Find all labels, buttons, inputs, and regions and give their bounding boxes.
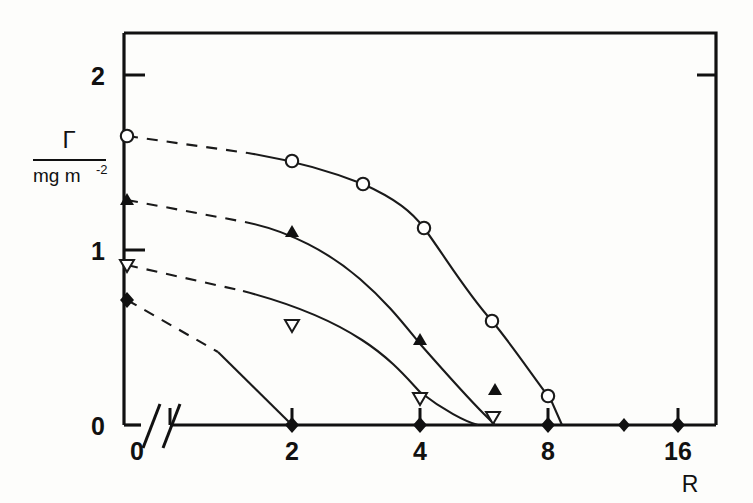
series-filled-triangle-leadin [127,200,245,222]
series-open-triangle-markers [120,260,500,424]
series-open-triangle-leadin [127,265,243,291]
x-tick-label-4: 4 [413,437,427,465]
series-filled-triangle-markers [120,193,502,395]
series-filled-diamond-markers [120,292,134,308]
x-tick-label-0: 0 [130,437,144,465]
series-open-circle-markers [121,130,554,402]
series-filled-diamond [120,292,290,423]
y-tick-label-1: 1 [91,237,105,265]
figure-root: 2 1 0 0 2 4 8 16 R Γ mg m -2 [0,0,753,503]
series-open-triangle-down [120,260,500,425]
series-filled-diamond-leadin [127,300,218,352]
y-tick-label-2: 2 [91,62,105,90]
x-tick-label-2: 2 [285,437,299,465]
series-filled-diamond-curve [218,352,290,423]
y-axis-title: Γ mg m -2 [33,126,108,186]
series-filled-triangle-up [120,193,502,425]
series-open-circle-leadin [127,136,248,153]
series-open-circle-curve [248,153,562,425]
x-tick-label-16: 16 [664,437,692,465]
series-filled-triangle-curve [245,222,495,425]
y-axis-title-denominator: mg m [33,165,81,186]
series-open-triangle-curve [243,291,478,425]
chart-svg: 2 1 0 0 2 4 8 16 R Γ mg m -2 [0,0,753,503]
x-axis-title: R [682,471,699,497]
y-tick-label-0: 0 [91,412,105,440]
y-axis-title-numerator: Γ [62,126,75,153]
x-tick-label-8: 8 [541,437,555,465]
y-axis-title-denominator-exponent: -2 [96,162,108,177]
